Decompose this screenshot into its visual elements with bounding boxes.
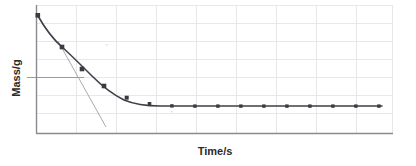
data-point <box>36 13 41 18</box>
data-point <box>80 67 85 72</box>
data-point <box>102 84 107 89</box>
data-point <box>331 104 334 107</box>
data-point <box>354 104 357 107</box>
x-axis-label: Time/s <box>160 145 270 157</box>
data-point <box>216 104 219 107</box>
data-point <box>193 104 196 107</box>
data-point <box>308 104 311 107</box>
data-point <box>60 45 65 50</box>
data-point <box>262 104 265 107</box>
chart-figure: Mass/g Time/s <box>0 0 416 166</box>
data-point <box>285 104 288 107</box>
data-point <box>125 96 129 100</box>
decay-curve <box>38 16 382 106</box>
chart-plot-area <box>0 0 416 166</box>
tangent-line <box>58 41 106 127</box>
y-axis-label: Mass/g <box>10 48 22 108</box>
data-point <box>170 104 173 107</box>
data-point <box>239 104 242 107</box>
scan-artifacts <box>106 44 172 112</box>
data-point <box>377 104 380 107</box>
data-point <box>148 102 152 106</box>
